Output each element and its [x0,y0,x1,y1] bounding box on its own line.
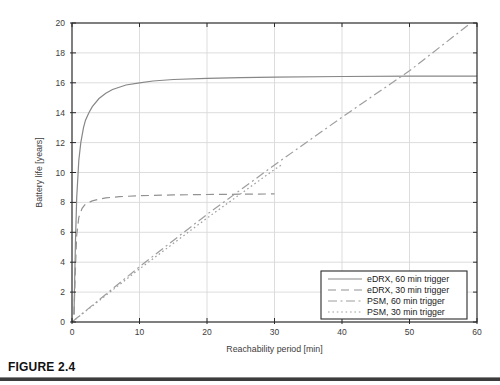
y-axis-label: Battery life [years] [34,137,44,207]
svg-text:16: 16 [56,78,66,88]
svg-text:14: 14 [56,108,66,118]
x-axis-label: Reachability period [min] [226,344,322,354]
svg-text:10: 10 [56,168,66,178]
svg-text:6: 6 [60,227,65,237]
svg-text:18: 18 [56,48,66,58]
series-psm-30-min-trigger [72,165,281,322]
svg-text:0: 0 [60,317,65,327]
svg-text:40: 40 [337,327,347,337]
legend-item-label: eDRX, 60 min trigger [367,274,449,284]
svg-text:60: 60 [472,327,482,337]
y-tick-labels: 02468101214161820 [56,18,66,327]
figure-2-4: 010203040506002468101214161820Reachabili… [0,0,500,385]
legend: eDRX, 60 min triggereDRX, 30 min trigger… [321,271,467,319]
svg-text:50: 50 [405,327,415,337]
svg-text:4: 4 [60,257,65,267]
svg-text:20: 20 [202,327,212,337]
battery-life-chart: 010203040506002468101214161820Reachabili… [0,0,500,358]
x-tick-labels: 0102030405060 [70,327,482,337]
svg-text:20: 20 [56,18,66,28]
legend-item-label: eDRX, 30 min trigger [367,285,449,295]
svg-text:10: 10 [135,327,145,337]
svg-text:8: 8 [60,197,65,207]
legend-item-label: PSM, 60 min trigger [367,296,445,306]
svg-text:12: 12 [56,138,66,148]
caption-divider [0,377,500,381]
legend-item-label: PSM, 30 min trigger [367,307,445,317]
svg-text:2: 2 [60,287,65,297]
figure-caption: FIGURE 2.4 [8,360,500,374]
svg-text:30: 30 [270,327,280,337]
svg-text:0: 0 [70,327,75,337]
